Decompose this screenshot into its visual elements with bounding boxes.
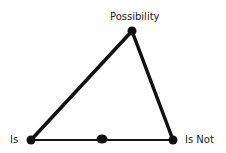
node-possibility xyxy=(128,27,137,36)
edge-is-possibility xyxy=(31,31,132,140)
node-is xyxy=(27,136,36,145)
label-is-not: Is Not xyxy=(185,134,214,146)
node-middle xyxy=(97,135,108,144)
label-is: Is xyxy=(10,134,18,146)
edge-possibility-isnot xyxy=(132,31,173,140)
node-is-not xyxy=(169,136,178,145)
label-possibility: Possibility xyxy=(110,11,160,23)
